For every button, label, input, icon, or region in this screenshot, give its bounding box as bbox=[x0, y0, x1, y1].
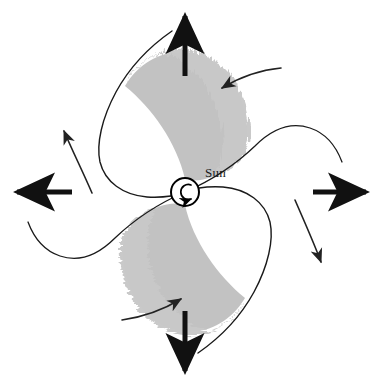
spiral-arm-figure: Sun bbox=[0, 0, 379, 388]
sun-circle bbox=[171, 178, 199, 206]
sun-marker[interactable] bbox=[171, 178, 199, 206]
flow-arrow-upper-left bbox=[64, 131, 92, 193]
upper-spiral-arm bbox=[99, 31, 250, 197]
sun-label: Sun bbox=[205, 165, 226, 181]
lower-spiral-arm bbox=[120, 187, 271, 353]
figure-canvas bbox=[0, 0, 379, 388]
flow-arrow-lower-right bbox=[295, 200, 321, 262]
